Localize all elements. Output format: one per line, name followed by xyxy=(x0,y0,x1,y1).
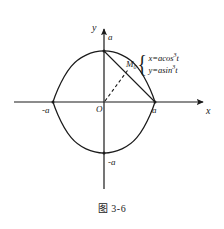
equation-y-lhs: y=asin xyxy=(148,65,172,75)
equation-x: x=acos3t xyxy=(148,52,178,63)
radius-origin-to-m0 xyxy=(105,71,128,102)
vertex-left-label: -a xyxy=(42,106,50,115)
vertex-left-dot xyxy=(52,101,55,104)
vertex-top-label: a xyxy=(108,33,113,42)
point-m0-letter: M xyxy=(126,59,134,69)
brace-glyph: { xyxy=(138,52,147,75)
equation-y: y=asin3t xyxy=(148,64,178,75)
origin-label: O xyxy=(96,105,103,114)
vertex-right-dot xyxy=(154,101,157,104)
equation-y-var: t xyxy=(175,65,177,75)
vertex-top-dot xyxy=(103,50,106,53)
equation-lines: x=acos3t y=asin3t xyxy=(148,52,178,75)
astroid-plot xyxy=(0,0,224,200)
parametric-equations: { x=acos3t y=asin3t xyxy=(136,52,179,75)
vertex-right-label: a xyxy=(152,106,157,115)
vertex-bottom-dot xyxy=(103,152,106,155)
figure-caption: 图 3-6 xyxy=(0,200,224,215)
astroid-figure: y x a a -a -a O M0 { x=acos3t y=asin3t 图… xyxy=(0,0,224,229)
x-axis-label: x xyxy=(206,106,210,116)
point-m0-label: M0 xyxy=(126,60,137,70)
equation-x-lhs: x=acos xyxy=(148,53,173,63)
equation-x-var: t xyxy=(177,53,179,63)
y-axis-label: y xyxy=(92,23,96,33)
vertex-bottom-label: -a xyxy=(108,158,116,167)
